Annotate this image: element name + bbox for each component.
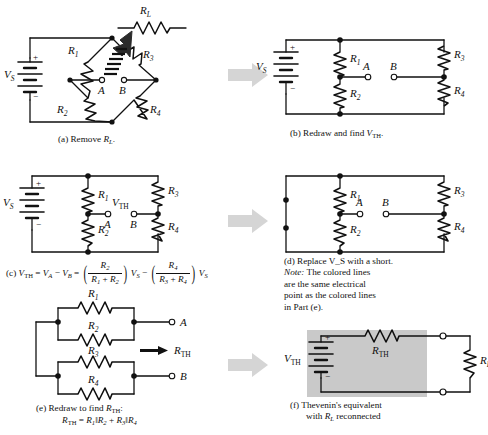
caption-d-line-2: The colored lines xyxy=(307,267,371,277)
label-r4-a: R4 xyxy=(149,103,161,118)
label-vs-c: VS xyxy=(3,196,14,211)
label-node-b: B xyxy=(119,84,126,96)
resistor-r2-a xyxy=(84,98,112,122)
wire-a-r4-upper-wire xyxy=(140,80,156,96)
battery-vs-a xyxy=(18,58,42,100)
paren-close-1: ) xyxy=(123,268,127,279)
label-r2-a: R2 xyxy=(56,103,68,118)
label-rl-a: RL xyxy=(139,4,151,19)
label-node-b-b: B xyxy=(390,60,397,72)
label-vth-f: VTH xyxy=(284,352,301,367)
resistor-r1-d xyxy=(334,188,346,212)
label-rth-e: RTH xyxy=(173,344,191,359)
panel-d-circuit: R1 R2 R3 R4 A B xyxy=(244,160,488,265)
label-plus-f: + xyxy=(325,332,330,342)
label-minus-c: − xyxy=(36,219,41,229)
caption-c-equation: (c) VTH = VA − VB = (R2R1 + R2) VS − (R4… xyxy=(6,260,208,287)
terminal-a-node-b[interactable] xyxy=(365,74,371,80)
label-r3-b: R3 xyxy=(453,48,465,63)
paren-close-2: ) xyxy=(191,268,195,279)
caption-d-line-3: are the same electrical xyxy=(284,279,366,289)
terminal-top-node-f[interactable] xyxy=(440,333,446,339)
label-rth-f: RTH xyxy=(371,344,389,359)
resistor-r2-c xyxy=(82,220,94,246)
resistor-r4-b xyxy=(438,80,450,106)
resistor-r1-b xyxy=(334,52,346,76)
resistor-r2-b xyxy=(334,84,346,108)
label-r1-c: R1 xyxy=(97,188,108,203)
label-r1-a: R1 xyxy=(67,44,78,59)
resistor-r2-d xyxy=(334,220,346,246)
panel-e-redraw-find-rth: R1 R2 R3 R4 A B xyxy=(0,300,244,435)
caption-f: (f) Thevenin's equivalent with RL reconn… xyxy=(290,400,470,425)
label-plus-a: + xyxy=(33,52,38,62)
label-node-a-d: A xyxy=(355,196,363,208)
caption-d-line-4: point as the colored lines xyxy=(284,290,376,300)
panel-c-circuit: VS + − R1 R2 R3 R4 xyxy=(0,160,244,270)
label-r3-c: R3 xyxy=(167,184,179,199)
resistor-r4-a xyxy=(134,96,148,119)
label-r2-d: R2 xyxy=(349,223,361,238)
wire-a-r1-upper xyxy=(88,38,112,62)
resistor-r1-c xyxy=(82,188,94,212)
label-plus-c: + xyxy=(36,178,41,188)
label-r2-e: R2 xyxy=(87,319,99,334)
terminal-a-node[interactable] xyxy=(99,77,104,82)
caption-f-line-1: (f) Thevenin's equivalent xyxy=(290,400,382,410)
label-r3-d: R3 xyxy=(453,184,465,199)
panel-e-circuit: R1 R2 R3 R4 A B xyxy=(0,300,244,400)
resistor-rl-a xyxy=(134,22,170,34)
label-r3-a: R3 xyxy=(142,48,154,63)
label-r2-b: R2 xyxy=(349,87,361,102)
resistor-r3-d xyxy=(438,182,450,206)
caption-d-note-word: Note: xyxy=(284,267,304,277)
caption-f-line-2: with RL reconnected xyxy=(290,411,381,421)
terminal-b-node-d[interactable] xyxy=(383,211,389,217)
resistor-rl-f xyxy=(464,350,476,378)
label-node-a-b: A xyxy=(362,60,370,72)
label-minus-b: − xyxy=(290,83,295,93)
resistor-r1-e xyxy=(78,302,112,314)
terminal-a-node-c[interactable] xyxy=(105,211,111,217)
resistor-r4-e xyxy=(78,388,112,400)
panel-f-circuit: VTH + − RTH RL xyxy=(244,300,488,405)
resistor-r2-e xyxy=(78,334,112,346)
panel-c-vth-equation: VS + − R1 R2 R3 R4 xyxy=(0,160,244,300)
label-minus-a: − xyxy=(33,91,38,101)
terminal-b-node-c[interactable] xyxy=(131,211,137,217)
caption-a: (a) Remove RL. xyxy=(58,134,115,147)
label-plus-b: + xyxy=(290,42,295,52)
label-vs-b: VS xyxy=(256,60,267,75)
arrow-rth-pointer xyxy=(140,346,168,355)
panel-d-replace-source-with-short: R1 R2 R3 R4 A B xyxy=(244,160,488,300)
label-node-b-c: B xyxy=(130,218,137,230)
label-r4-c: R4 xyxy=(167,220,179,235)
resistor-rth-f xyxy=(365,330,399,342)
label-r4-b: R4 xyxy=(453,84,465,99)
terminal-b-node-e[interactable] xyxy=(169,373,175,379)
panel-b-circuit: VS + − R1 R2 R3 R4 xyxy=(244,0,488,125)
label-node-b-d: B xyxy=(382,196,389,208)
wire-a-r3-lower xyxy=(139,65,156,80)
label-node-b-e: B xyxy=(180,370,187,382)
label-node-a-c: A xyxy=(103,218,111,230)
terminal-a-node-d[interactable] xyxy=(357,211,363,217)
panel-a-remove-rl: VS + − R1 R2 R3 R4 xyxy=(0,0,244,160)
terminal-bottom-node-f[interactable] xyxy=(440,389,446,395)
panel-b-redraw-find-vth: VS + − R1 R2 R3 R4 xyxy=(244,0,488,160)
paren-open-1: ( xyxy=(83,268,87,279)
terminal-b-node[interactable] xyxy=(121,77,126,82)
resistor-r3-c xyxy=(152,182,164,206)
label-vth-c: VTH xyxy=(112,196,129,211)
terminal-b-node-b[interactable] xyxy=(391,74,397,80)
caption-d-line-1: (d) Replace V_S with a short. xyxy=(284,256,393,266)
caption-e-equation: RTH = R1‖R2 + R3‖R4 xyxy=(62,415,137,428)
panel-a-circuit: VS + − R1 R2 R3 R4 xyxy=(0,0,244,130)
label-node-a-e: A xyxy=(179,316,187,328)
fraction-r2-over-r1-plus-r2: R2R1 + R2 xyxy=(88,260,122,287)
terminal-a-node-e[interactable] xyxy=(169,319,175,325)
paren-open-2: ( xyxy=(151,268,155,279)
label-r4-e: R4 xyxy=(87,373,99,388)
panel-f-thevenin-equivalent: VTH + − RTH RL (f) Thevenin's equivalent… xyxy=(244,300,488,435)
label-vs-a: VS xyxy=(4,68,15,83)
